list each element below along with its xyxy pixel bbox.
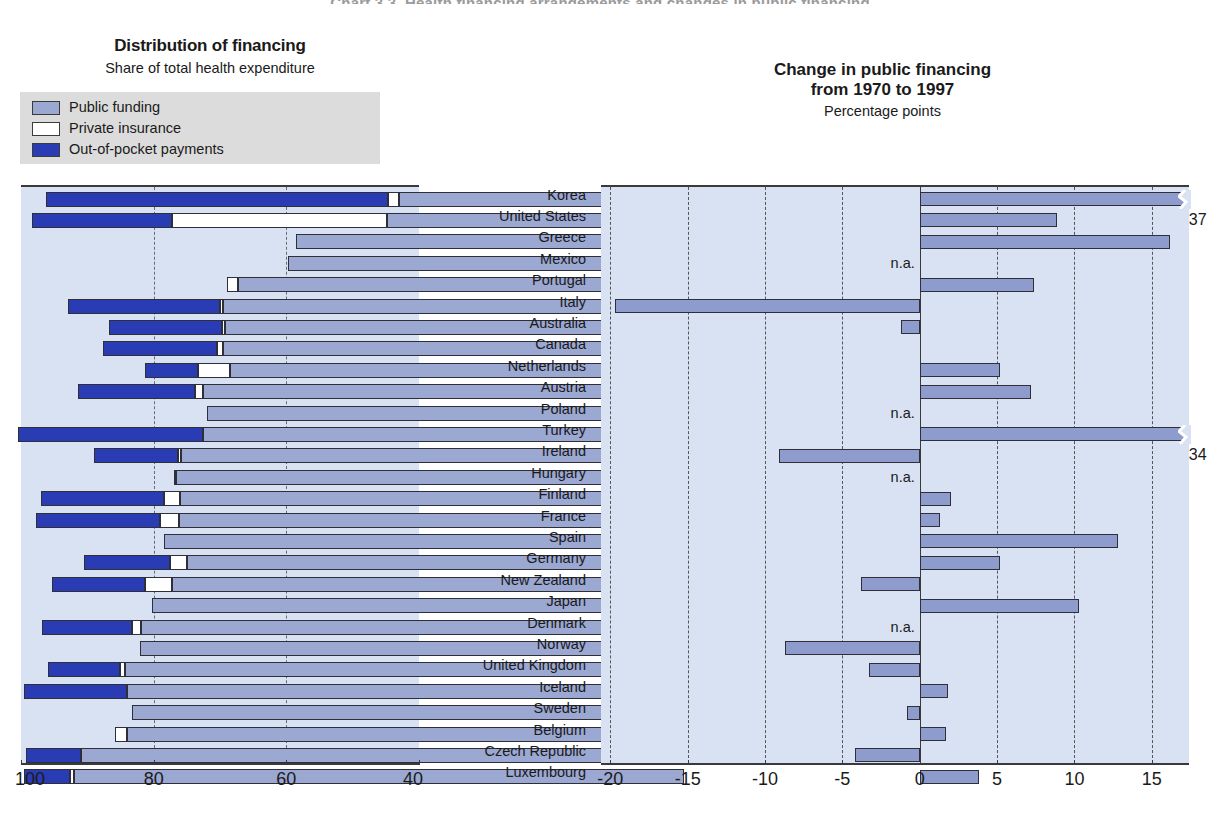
country-label: United States: [499, 206, 586, 227]
segment-private-insurance: [132, 620, 141, 635]
legend-item-public: Public funding: [32, 97, 380, 118]
left-bar-row: [21, 403, 419, 424]
left-bar-row: [21, 189, 419, 210]
legend-label-private: Private insurance: [69, 121, 181, 136]
left-bar-row: [21, 702, 419, 723]
right-bar: [901, 320, 920, 334]
segment-out-of-pocket: [18, 427, 204, 442]
left-bar-row: [21, 681, 419, 702]
right-axis-tick: [765, 760, 766, 765]
right-bar: [920, 235, 1171, 249]
country-label: Turkey: [542, 420, 586, 441]
right-chart-panel: Change in public financing from 1970 to …: [590, 0, 1200, 830]
left-bar-row: [21, 317, 419, 338]
left-axis-tick: [286, 760, 287, 765]
country-label: Italy: [559, 292, 586, 313]
right-bar: [920, 727, 946, 741]
country-label: United Kingdom: [483, 655, 586, 676]
right-bar: [920, 213, 1058, 227]
left-axis-tick: [21, 760, 22, 765]
segment-out-of-pocket: [26, 748, 81, 763]
right-bar-row: 34: [601, 424, 1189, 445]
right-bar-row: n.a.: [601, 467, 1189, 488]
country-label: Ireland: [542, 441, 586, 462]
country-label: Hungary: [531, 463, 586, 484]
left-bar-row: [21, 531, 419, 552]
right-axis-tick: [1152, 760, 1153, 765]
country-label: Australia: [530, 313, 586, 334]
broken-bar-value-label: 37: [1189, 211, 1207, 229]
country-label: Japan: [546, 591, 586, 612]
right-bar: [907, 706, 919, 720]
country-label: Netherlands: [508, 356, 586, 377]
right-bar: [920, 363, 1000, 377]
right-bar-row: [601, 317, 1189, 338]
left-bar-row: [21, 360, 419, 381]
segment-private-insurance: [172, 213, 387, 228]
country-label: Luxembourg: [505, 762, 586, 783]
legend-swatch-private-icon: [32, 122, 60, 136]
left-axis-tick: [419, 760, 420, 765]
right-axis-tick-label: 5: [992, 769, 1002, 790]
country-label: Iceland: [539, 677, 586, 698]
left-bar-row: [21, 552, 419, 573]
right-bar: [920, 599, 1079, 613]
right-bar-row: [601, 659, 1189, 680]
na-label: n.a.: [891, 253, 920, 274]
left-bar-row: [21, 424, 419, 445]
segment-private-insurance: [227, 277, 238, 292]
left-bar-row: [21, 766, 419, 787]
left-bar-row: [21, 617, 419, 638]
right-bar: [920, 534, 1118, 548]
left-chart-panel: Distribution of financing Share of total…: [0, 0, 440, 830]
left-bar-row: [21, 381, 419, 402]
right-bar: [920, 556, 1000, 570]
right-axis-tick: [842, 760, 843, 765]
left-bar-row: [21, 253, 419, 274]
country-label: Belgium: [534, 720, 586, 741]
segment-out-of-pocket: [24, 684, 127, 699]
country-label: France: [541, 506, 586, 527]
country-label: Mexico: [540, 249, 586, 270]
right-axis-tick: [1074, 760, 1075, 765]
segment-private-insurance: [145, 577, 172, 592]
right-bar-row: n.a.: [601, 253, 1189, 274]
segment-private-insurance: [388, 192, 399, 207]
left-bar-row: [21, 274, 419, 295]
country-label: Spain: [549, 527, 586, 548]
country-label: Denmark: [527, 613, 586, 634]
country-label: New Zealand: [501, 570, 586, 591]
broken-bar-value-label: 34: [1189, 446, 1207, 464]
country-label: Portugal: [532, 270, 586, 291]
right-bar-row: n.a.: [601, 617, 1189, 638]
right-axis-tick-label: 10: [1064, 769, 1084, 790]
right-bar-row: [601, 595, 1189, 616]
segment-out-of-pocket: [94, 448, 178, 463]
left-bar-row: [21, 724, 419, 745]
legend: Public funding Private insurance Out-of-…: [20, 92, 380, 164]
left-axis-tick: [154, 760, 155, 765]
right-bar-row: [601, 552, 1189, 573]
right-bar-row: 37: [601, 189, 1189, 210]
segment-out-of-pocket: [41, 491, 164, 506]
left-bar-row: [21, 595, 419, 616]
right-bar: [920, 278, 1035, 292]
right-axis-tick-label: -15: [675, 769, 701, 790]
right-bar-row: [601, 338, 1189, 359]
right-bar: [861, 577, 920, 591]
right-bar: [920, 192, 1189, 206]
right-axis-tick: [920, 760, 921, 765]
right-bar: [869, 663, 920, 677]
na-label: n.a.: [891, 617, 920, 638]
right-bar-row: [601, 531, 1189, 552]
axis-break-icon: [1178, 190, 1191, 209]
legend-swatch-oop-icon: [32, 143, 60, 157]
left-chart-subtitle: Share of total health expenditure: [0, 60, 420, 76]
right-bar-row: [601, 274, 1189, 295]
left-bar-row: [21, 338, 419, 359]
right-bar: [615, 299, 920, 313]
left-bar-row: [21, 510, 419, 531]
segment-out-of-pocket: [46, 192, 388, 207]
right-axis-tick: [688, 760, 689, 765]
right-axis-tick: [997, 760, 998, 765]
